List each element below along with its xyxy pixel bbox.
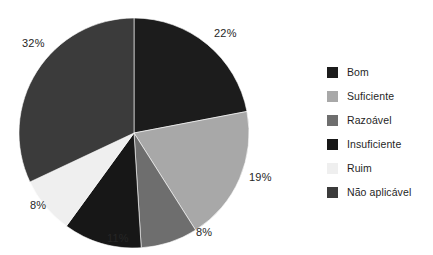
- legend: Bom Suficiente Razoável Insuficiente Rui…: [327, 60, 433, 204]
- legend-item-nao-aplicavel[interactable]: Não aplicável: [327, 180, 433, 204]
- legend-item-label: Não aplicável: [347, 186, 411, 198]
- legend-swatch-icon: [327, 67, 338, 78]
- legend-item-label: Suficiente: [347, 90, 394, 102]
- legend-item-bom[interactable]: Bom: [327, 60, 433, 84]
- slice-label-ruim: 8%: [30, 200, 46, 211]
- legend-item-label: Ruim: [347, 162, 372, 174]
- slice-label-insuficiente: 11%: [107, 233, 129, 244]
- legend-item-suficiente[interactable]: Suficiente: [327, 84, 433, 108]
- legend-item-ruim[interactable]: Ruim: [327, 156, 433, 180]
- legend-swatch-icon: [327, 115, 338, 126]
- legend-swatch-icon: [327, 91, 338, 102]
- legend-swatch-icon: [327, 187, 338, 198]
- pie-chart: 22% 19% 8% 11% 8% 32% Bom Suficiente Raz…: [0, 0, 433, 255]
- legend-swatch-icon: [327, 139, 338, 150]
- slice-label-suficiente: 19%: [249, 172, 272, 183]
- legend-item-label: Insuficiente: [347, 138, 401, 150]
- legend-item-label: Bom: [347, 66, 369, 78]
- legend-swatch-icon: [327, 163, 338, 174]
- slice-label-nao-aplicavel: 32%: [22, 38, 45, 49]
- pie-plot-area: 22% 19% 8% 11% 8% 32%: [0, 0, 290, 255]
- slice-label-razoavel: 8%: [196, 227, 212, 238]
- legend-item-razoavel[interactable]: Razoável: [327, 108, 433, 132]
- slice-label-bom: 22%: [214, 28, 237, 39]
- legend-item-label: Razoável: [347, 114, 392, 126]
- legend-item-insuficiente[interactable]: Insuficiente: [327, 132, 433, 156]
